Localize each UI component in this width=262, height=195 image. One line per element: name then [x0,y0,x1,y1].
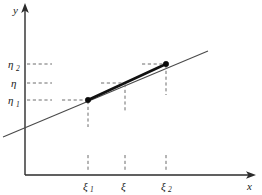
x-tick-xi-one-base: ξ [83,180,88,193]
chord-group [88,64,166,100]
horizontal-guides-group [27,64,164,100]
y-tick-eta-base: η [11,77,16,89]
x-tick-label-xi-one: ξ 1 [83,180,94,194]
y-tick-eta-two-subscript: 2 [16,64,20,73]
x-tick-labels-group: ξ 1 ξ ξ 2 [83,180,172,194]
x-tick-label-xi-two: ξ 2 [161,180,172,194]
highlighted-chord-segment [88,64,166,100]
y-tick-label-eta-one: η 1 [8,94,20,109]
y-tick-labels-group: η 2 η η 1 [8,58,20,109]
x-tick-xi-one-subscript: 1 [90,185,94,194]
y-tick-label-eta-two: η 2 [8,58,20,73]
y-tick-label-eta: η [11,77,16,89]
y-axis-title: y [12,4,18,16]
plot-canvas: y x η 2 η η 1 ξ 1 ξ [0,0,262,195]
y-tick-eta-one-base: η [8,94,13,106]
axes-group [21,3,256,179]
x-tick-xi-two-base: ξ [161,180,166,193]
figure-container: y x η 2 η η 1 ξ 1 ξ [0,0,262,195]
x-tick-xi-base: ξ [121,180,126,193]
data-point-xi-two [163,61,168,66]
x-tick-label-xi: ξ [121,180,126,193]
x-axis-title: x [246,180,252,192]
y-tick-eta-two-base: η [8,58,13,70]
data-point-xi-one [85,97,90,102]
y-tick-eta-one-subscript: 1 [16,100,20,109]
x-tick-xi-two-subscript: 2 [168,185,172,194]
